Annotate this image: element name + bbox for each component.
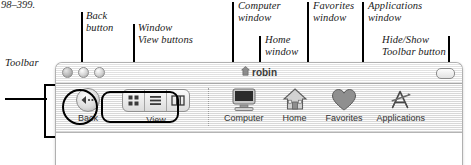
toolbar-item-favorites-label: Favorites: [326, 113, 363, 123]
toolbar-item-computer-label: Computer: [224, 113, 264, 123]
highlight-view-buttons: [101, 91, 179, 123]
callout-back-button: Back button: [86, 10, 113, 33]
highlight-back-button: [62, 89, 98, 125]
page-reference: 98–399.: [1, 0, 35, 10]
toolbar-separator: [208, 88, 209, 126]
toolbar-item-home-label: Home: [283, 113, 307, 123]
callout-applications-window: Applications window: [368, 0, 422, 23]
callout-hide-show-toolbar: Hide/Show Toolbar button: [382, 34, 446, 57]
applications-a-icon: [388, 86, 414, 112]
window-title-group: robin: [56, 66, 462, 78]
toolbar-item-favorites[interactable]: Favorites: [319, 86, 370, 123]
window-content-area: [56, 133, 462, 165]
home-icon: [282, 86, 308, 112]
toolbar-item-applications-label: Applications: [377, 113, 426, 123]
toolbar-item-computer[interactable]: Computer: [217, 86, 271, 123]
computer-icon: [231, 86, 257, 112]
leader-line-toolbar: [5, 98, 47, 100]
toolbar-item-applications[interactable]: Applications: [370, 86, 433, 123]
window-titlebar[interactable]: robin: [56, 63, 462, 84]
callout-home-window: Home window: [265, 34, 298, 57]
heart-icon: [331, 86, 357, 112]
callout-favorites-window: Favorites window: [313, 0, 354, 23]
callout-computer-window: Computer window: [238, 0, 281, 23]
toolbar-item-home[interactable]: Home: [271, 86, 319, 123]
hide-show-toolbar-button[interactable]: [436, 68, 455, 79]
callout-toolbar: Toolbar: [5, 57, 39, 69]
home-icon: [241, 66, 250, 78]
window-title-text: robin: [252, 67, 277, 78]
callout-window-view-buttons: Window View buttons: [138, 22, 193, 45]
